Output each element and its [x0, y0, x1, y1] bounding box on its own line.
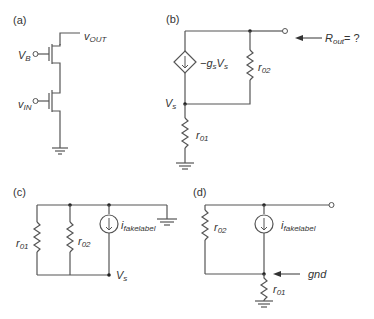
resistor-r01-icon [261, 274, 267, 300]
vs-label: Vs [116, 269, 127, 283]
resistor-r01-icon [182, 118, 188, 148]
vout-label: vOUT [84, 30, 108, 44]
output-terminal [283, 29, 288, 34]
panel-b-label: (b) [166, 13, 179, 25]
r01-label: r01 [16, 237, 29, 251]
vs-label: Vs [165, 97, 176, 111]
vin-label: vIN [18, 98, 32, 112]
r01-label: r01 [273, 283, 286, 297]
circuit-diagram: (a) vOUT VB vIN [0, 0, 374, 319]
dependent-source-label: −gsVs [200, 57, 228, 71]
transistor-upper [33, 44, 60, 88]
vb-terminal [33, 52, 38, 57]
gnd-label: gnd [308, 268, 327, 280]
vb-label: VB [18, 49, 31, 63]
ground-icon [176, 163, 194, 169]
current-source-label: ifakelabel [121, 219, 156, 233]
transistor-lower [33, 88, 60, 148]
output-terminal [329, 203, 334, 208]
panel-c: (c) r01 r02 ifakelabel Vs [13, 186, 177, 283]
resistor-r01-icon [34, 222, 40, 252]
current-source-label: ifakelabel [281, 219, 316, 233]
rout-label: Rout= ? [325, 32, 360, 46]
ground-icon [157, 219, 177, 225]
ground-icon [52, 148, 68, 154]
panel-a-label: (a) [13, 14, 26, 26]
r02-label: r02 [258, 61, 271, 75]
panel-b: (b) −gsVs r02 Vs r01 Rout= ? [165, 13, 360, 169]
vout-wire [60, 33, 80, 45]
r02-label: r02 [214, 221, 227, 235]
r02-label: r02 [78, 235, 91, 249]
resistor-r02-icon [202, 210, 208, 240]
panel-d-label: (d) [193, 186, 206, 198]
vin-terminal [33, 99, 38, 104]
panel-c-label: (c) [13, 186, 26, 198]
panel-d: (d) r02 ifakelabel r01 gnd [193, 186, 334, 307]
arrow-left-icon [295, 35, 303, 41]
resistor-r02-icon [67, 222, 73, 252]
ground-icon [255, 301, 273, 307]
r01-label: r01 [196, 129, 209, 143]
panel-a: (a) vOUT VB vIN [13, 14, 108, 154]
arrow-left-icon [273, 271, 281, 277]
resistor-r02-icon [247, 50, 253, 80]
